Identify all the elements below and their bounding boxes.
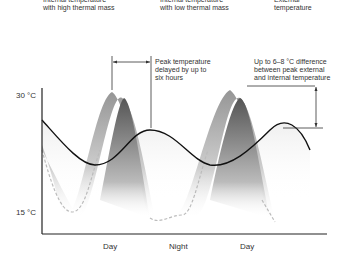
arrow-right-icon [146, 61, 150, 64]
arrow-up-icon [315, 87, 318, 91]
arrow-down-icon [315, 123, 318, 127]
temperature-diagram [0, 0, 343, 254]
arrow-left-icon [113, 61, 117, 64]
